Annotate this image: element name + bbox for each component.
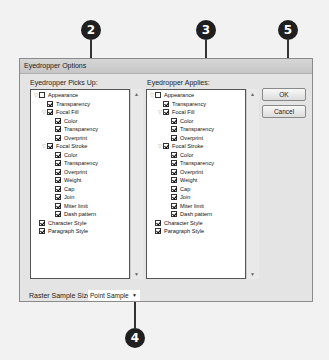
cancel-button[interactable]: Cancel (262, 105, 306, 118)
raster-sample-size-select[interactable]: Point Sample ▼ (88, 290, 140, 301)
checkbox[interactable] (39, 220, 45, 226)
checkbox[interactable] (163, 143, 169, 149)
picks-up-tree[interactable]: ▽AppearanceTransparency▽Focal FillColorT… (30, 89, 130, 279)
checkbox[interactable] (55, 126, 61, 132)
checkbox[interactable] (55, 211, 61, 217)
checkbox[interactable] (55, 118, 61, 124)
tree-item[interactable]: Cap (147, 185, 245, 194)
checkbox[interactable] (171, 126, 177, 132)
checkbox[interactable] (39, 92, 45, 98)
picks-up-label: Eyedropper Picks Up: (30, 79, 98, 86)
checkbox[interactable] (55, 194, 61, 200)
tree-item-label: Color (64, 118, 77, 124)
applies-scrollbar[interactable]: ▲ ▼ (246, 89, 259, 279)
raster-sample-size-value: Point Sample (90, 292, 129, 299)
tree-item[interactable]: ▽Appearance (147, 91, 245, 100)
tree-item-label: Cap (180, 186, 190, 192)
tree-item-label: Character Style (164, 220, 203, 226)
checkbox[interactable] (55, 152, 61, 158)
tree-item[interactable]: ▽Appearance (31, 91, 129, 100)
tree-item[interactable]: Color (31, 117, 129, 126)
tree-item-label: Focal Stroke (172, 143, 203, 149)
tree-item[interactable]: Transparency (147, 159, 245, 168)
tree-item[interactable]: Color (147, 151, 245, 160)
checkbox[interactable] (47, 109, 53, 115)
scroll-up-icon[interactable]: ▲ (250, 91, 255, 97)
checkbox[interactable] (171, 211, 177, 217)
tree-item[interactable]: Transparency (31, 125, 129, 134)
checkbox[interactable] (171, 194, 177, 200)
checkbox[interactable] (171, 169, 177, 175)
tree-item[interactable]: ▽Focal Fill (147, 108, 245, 117)
applies-tree[interactable]: ▽AppearanceTransparency▽Focal FillColorT… (146, 89, 246, 279)
tree-item[interactable]: Overprint (31, 168, 129, 177)
tree-item[interactable]: Overprint (147, 168, 245, 177)
tree-item-label: Miter limit (180, 203, 204, 209)
checkbox[interactable] (171, 152, 177, 158)
checkbox[interactable] (55, 186, 61, 192)
tree-item-label: Appearance (164, 92, 194, 98)
tree-item[interactable]: Transparency (31, 159, 129, 168)
callout-2: 2 (81, 20, 101, 40)
checkbox[interactable] (155, 228, 161, 234)
tree-item[interactable]: Paragraph Style (31, 227, 129, 236)
tree-item-label: Transparency (64, 160, 98, 166)
scroll-down-icon[interactable]: ▼ (250, 271, 255, 277)
chevron-down-icon[interactable]: ▼ (132, 290, 137, 301)
ok-button[interactable]: OK (262, 88, 306, 101)
raster-sample-size-label: Raster Sample Size: (29, 292, 93, 299)
tree-item[interactable]: Weight (31, 176, 129, 185)
checkbox[interactable] (55, 135, 61, 141)
tree-item-label: Transparency (172, 101, 206, 107)
checkbox[interactable] (155, 220, 161, 226)
tree-item-label: Overprint (180, 135, 203, 141)
tree-item[interactable]: ▽Focal Fill (31, 108, 129, 117)
checkbox[interactable] (171, 186, 177, 192)
tree-item[interactable]: Color (147, 117, 245, 126)
tree-item-label: Transparency (180, 126, 214, 132)
checkbox[interactable] (39, 228, 45, 234)
tree-item[interactable]: Overprint (147, 134, 245, 143)
picks-up-scrollbar[interactable]: ▲ ▼ (130, 89, 143, 279)
tree-item[interactable]: ▽Focal Stroke (147, 142, 245, 151)
tree-item[interactable]: Dash pattern (147, 210, 245, 219)
tree-item[interactable]: Character Style (147, 219, 245, 228)
tree-item-label: Paragraph Style (48, 228, 88, 234)
tree-item[interactable]: Transparency (147, 125, 245, 134)
tree-item[interactable]: Miter limit (31, 202, 129, 211)
checkbox[interactable] (163, 109, 169, 115)
checkbox[interactable] (171, 118, 177, 124)
tree-item-label: Dash pattern (64, 211, 96, 217)
tree-item[interactable]: Miter limit (147, 202, 245, 211)
checkbox[interactable] (155, 92, 161, 98)
checkbox[interactable] (47, 101, 53, 107)
checkbox[interactable] (171, 160, 177, 166)
checkbox[interactable] (171, 135, 177, 141)
checkbox[interactable] (47, 143, 53, 149)
checkbox[interactable] (55, 203, 61, 209)
tree-item[interactable]: Overprint (31, 134, 129, 143)
tree-item[interactable]: Join (147, 193, 245, 202)
scroll-up-icon[interactable]: ▲ (134, 91, 139, 97)
checkbox[interactable] (171, 177, 177, 183)
tree-item[interactable]: Join (31, 193, 129, 202)
checkbox[interactable] (55, 169, 61, 175)
tree-item[interactable]: Weight (147, 176, 245, 185)
tree-item[interactable]: Cap (31, 185, 129, 194)
tree-item[interactable]: Color (31, 151, 129, 160)
checkbox[interactable] (55, 177, 61, 183)
tree-item[interactable]: Dash pattern (31, 210, 129, 219)
checkbox[interactable] (163, 101, 169, 107)
tree-item[interactable]: Paragraph Style (147, 227, 245, 236)
tree-item[interactable]: Transparency (31, 100, 129, 109)
checkbox[interactable] (55, 160, 61, 166)
tree-item-label: Dash pattern (180, 211, 212, 217)
scroll-down-icon[interactable]: ▼ (134, 271, 139, 277)
checkbox[interactable] (171, 203, 177, 209)
tree-item[interactable]: Character Style (31, 219, 129, 228)
tree-item[interactable]: ▽Focal Stroke (31, 142, 129, 151)
tree-item-label: Weight (64, 177, 81, 183)
tree-item-label: Join (180, 194, 190, 200)
tree-item[interactable]: Transparency (147, 100, 245, 109)
tree-item-label: Focal Fill (56, 109, 78, 115)
